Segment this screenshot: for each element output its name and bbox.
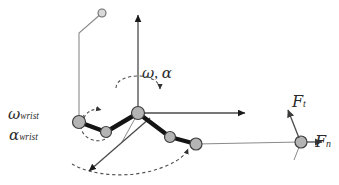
omega-wrist-symbol: ω	[8, 105, 20, 123]
tether-upper-line	[196, 142, 301, 144]
diagram-canvas	[0, 0, 339, 185]
wrist-joint-icon	[73, 116, 86, 129]
figure-container: ωwrist αwrist ω, α Ft Fn	[0, 0, 339, 185]
stand-line	[79, 13, 102, 122]
omega-alpha-separator: ,	[154, 65, 158, 81]
axes-group	[89, 15, 245, 171]
ft-symbol: F	[292, 92, 303, 111]
label-force-tangential: Ft	[292, 94, 306, 110]
omega-symbol: ω	[142, 64, 154, 82]
alpha-wrist-subscript: wrist	[19, 132, 38, 142]
force-tangential-arrow	[288, 110, 299, 138]
shoulder-hub-joint-icon	[132, 107, 145, 120]
support-lines-group	[79, 9, 301, 160]
label-omega-alpha: ω, α	[142, 66, 172, 81]
alpha-symbol: α	[162, 64, 172, 82]
fn-subscript: n	[326, 138, 331, 149]
fn-symbol: F	[315, 132, 326, 151]
contact-point-icon	[295, 136, 307, 148]
alpha-wrist-symbol: α	[9, 126, 19, 144]
omega-wrist-subscript: wrist	[20, 111, 39, 121]
distal-right-joint-icon	[190, 138, 202, 150]
elbow-right-joint-icon	[165, 132, 176, 143]
hand-joint-icon	[101, 127, 112, 138]
wrist-rotation-arc-upper	[84, 109, 101, 118]
ft-subscript: t	[303, 98, 306, 109]
label-omega-wrist: ωwrist	[8, 107, 39, 122]
stand-top-node-icon	[98, 9, 106, 17]
label-alpha-wrist: αwrist	[9, 128, 38, 143]
label-force-normal: Fn	[315, 134, 331, 150]
